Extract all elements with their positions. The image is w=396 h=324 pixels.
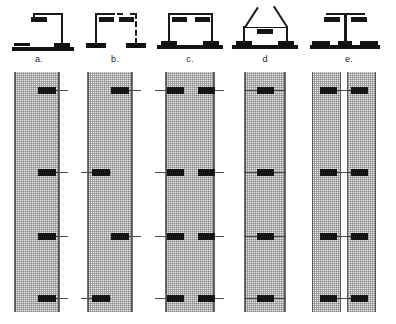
load-block-e-4-left [320, 295, 337, 302]
reaction-post-b-right-dashed [135, 13, 137, 44]
label-b: b. [78, 54, 152, 64]
top-beam-c [168, 13, 213, 15]
specimen-wrap-e [302, 72, 396, 312]
base-slab-d [232, 45, 298, 49]
load-block-e-left [324, 17, 340, 22]
specimen-panel-b [87, 72, 133, 312]
column-a: a. [0, 0, 78, 324]
load-block-a-4 [38, 295, 56, 302]
panel-edge-c-right [213, 72, 214, 312]
load-block-c-1-right [198, 87, 215, 94]
arm-stub-a [33, 15, 35, 18]
load-block-c-1-left [167, 87, 184, 94]
load-block-c-3-right [198, 233, 215, 240]
panel-edge-e-outer-left [312, 72, 313, 312]
base-slab-c [157, 45, 223, 49]
tie-beam-d [243, 27, 287, 28]
label-a: a. [0, 54, 78, 64]
column-c: c. [152, 0, 228, 324]
reaction-post-c-left [168, 13, 170, 43]
base-pad-a-left [14, 43, 30, 46]
load-block-e-3-left [320, 233, 337, 240]
column-d: d [228, 0, 302, 324]
inclined-arm-d-right [273, 6, 288, 27]
load-block-c-2-right [198, 169, 215, 176]
load-block-b-4 [92, 295, 110, 302]
load-block-c-left [172, 17, 187, 22]
panel-edge-e-outer-right [375, 72, 376, 312]
schematic-c [152, 0, 228, 54]
panel-edge-b-right [131, 72, 132, 312]
column-e: e. [302, 0, 396, 324]
load-block-e-right [351, 17, 367, 22]
load-block-a-3 [38, 233, 56, 240]
load-block-c-right [195, 17, 210, 22]
load-block-d-3 [257, 233, 274, 240]
specimen-wrap-c [152, 72, 228, 312]
base-slab-e [310, 45, 380, 49]
reaction-post-d-right [286, 26, 288, 43]
load-block-e-2-left [320, 169, 337, 176]
inclined-arm-d-left [244, 7, 259, 28]
load-block-e-4-right [351, 295, 368, 302]
load-block-b-right [119, 17, 134, 22]
reaction-post-b-left [95, 13, 97, 44]
load-block-d-1 [257, 87, 274, 94]
top-arm-a [33, 13, 62, 15]
schematic-e [302, 0, 396, 54]
label-d: d [228, 54, 302, 64]
column-b: b. [78, 0, 152, 324]
label-e: e. [302, 54, 396, 64]
panel-edge-d-right [284, 72, 285, 312]
load-block-b-left [99, 17, 114, 22]
load-block-d-2 [257, 169, 274, 176]
schematic-d [228, 0, 302, 54]
top-beam-b-right-dashed [117, 13, 136, 15]
load-block-e-3-right [351, 233, 368, 240]
load-block-c-4-left [167, 295, 184, 302]
load-block-e-2-right [351, 169, 368, 176]
label-c: c. [152, 54, 228, 64]
panel-edge-e-inner-right [347, 72, 348, 312]
panel-edge-b-left [88, 72, 89, 312]
load-block-c-2-left [167, 169, 184, 176]
specimen-panel-a [14, 72, 60, 312]
load-block-d-4 [257, 295, 274, 302]
load-block-c-3-left [167, 233, 184, 240]
load-block-e-1-right [351, 87, 368, 94]
reaction-post-a [61, 13, 63, 45]
load-block-e-1-left [320, 87, 337, 94]
base-pad-e-left [312, 41, 330, 45]
schematic-a [0, 0, 78, 54]
specimen-panel-c [165, 72, 215, 312]
panel-edge-a-left [15, 72, 16, 312]
specimen-wrap-d [228, 72, 302, 312]
panel-edge-d-left [245, 72, 246, 312]
base-pad-e-right [360, 41, 378, 45]
load-block-c-4-right [198, 295, 215, 302]
center-post-e [344, 13, 347, 44]
figure-canvas: a. [0, 0, 396, 324]
panel-edge-c-left [166, 72, 167, 312]
specimen-panel-e-right [348, 72, 376, 312]
load-block-b-3 [111, 233, 129, 240]
load-block-d-center [257, 29, 273, 34]
reaction-post-d-left [243, 26, 245, 43]
top-beam-b-left [95, 13, 115, 15]
specimen-panel-d [244, 72, 286, 312]
specimen-panel-e-left [312, 72, 340, 312]
panel-edge-e-inner-left [340, 72, 341, 312]
load-block-a-1 [38, 87, 56, 94]
specimen-wrap-b [78, 72, 152, 312]
reaction-post-c-right [211, 13, 213, 43]
panel-edge-a-right [58, 72, 59, 312]
load-block-b-2 [92, 169, 110, 176]
load-block-b-1 [111, 87, 129, 94]
load-block-a-2 [38, 169, 56, 176]
schematic-b [78, 0, 152, 54]
cross-beam-e [326, 13, 365, 15]
specimen-wrap-a [0, 72, 78, 312]
